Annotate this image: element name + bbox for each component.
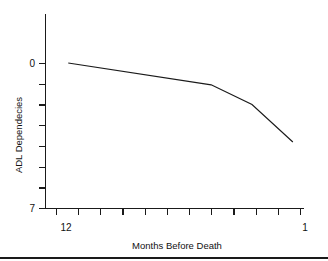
x-axis-title: Months Before Death (132, 240, 222, 251)
x-tick-label-right: 1 (302, 222, 308, 233)
chart-figure: 0 7 12 1 ADL Dependecies Months Before D… (0, 0, 328, 261)
chart-background (0, 0, 328, 261)
y-axis-title: ADL Dependecies (13, 97, 24, 173)
line-chart-canvas: 0 7 12 1 ADL Dependecies Months Before D… (0, 0, 328, 261)
y-tick-label-top: 0 (29, 58, 35, 69)
y-tick-label-bottom: 7 (29, 203, 35, 214)
x-tick-label-left: 12 (60, 222, 72, 233)
